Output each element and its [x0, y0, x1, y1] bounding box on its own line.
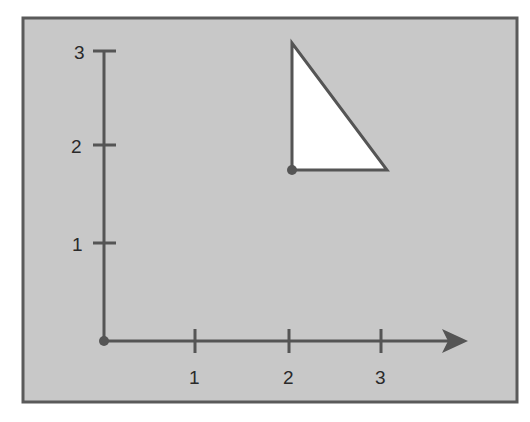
x-tick-label-2: 2 [283, 367, 294, 388]
y-tick-label-1: 1 [72, 234, 83, 255]
diagram-frame [23, 18, 517, 402]
x-tick-label-3: 3 [375, 367, 386, 388]
y-tick-label-2: 2 [71, 136, 82, 157]
x-tick-label-1: 1 [189, 367, 200, 388]
y-tick-label-3: 3 [74, 42, 85, 63]
origin-point [99, 336, 109, 346]
triangle-vertex-point [287, 165, 297, 175]
coordinate-diagram: 3 2 1 1 2 3 [0, 0, 530, 422]
